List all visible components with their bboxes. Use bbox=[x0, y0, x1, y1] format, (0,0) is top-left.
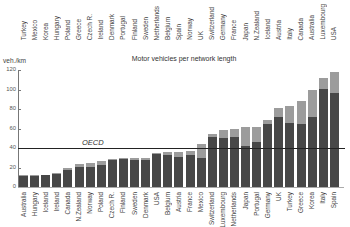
bar-dark-segment bbox=[197, 158, 206, 187]
bar-canada bbox=[63, 168, 72, 188]
bottom-country-label: Portugal bbox=[253, 192, 260, 216]
bottom-country-label: Austria bbox=[175, 192, 182, 212]
bar-greece bbox=[297, 101, 306, 187]
top-country-label: Belgium bbox=[164, 17, 171, 40]
bar-dark-segment bbox=[63, 170, 72, 187]
top-country-labels: TurkeyMexicoKoreaHungaryPolandGreeceCzec… bbox=[0, 0, 350, 42]
top-country-label: Czech R. bbox=[86, 14, 93, 40]
bar-dark-segment bbox=[86, 167, 95, 187]
x-baseline bbox=[18, 187, 344, 188]
bottom-country-label: Iceland bbox=[42, 192, 49, 213]
bar-dark-segment bbox=[274, 117, 283, 187]
top-country-label: Japan bbox=[242, 23, 249, 40]
y-tick-mark bbox=[18, 109, 21, 110]
bottom-country-label: UK bbox=[275, 192, 282, 201]
bottom-country-label: Finland bbox=[119, 192, 126, 213]
bottom-country-label: Hungary bbox=[31, 192, 38, 216]
bar-austria bbox=[174, 152, 183, 187]
bar-iceland bbox=[41, 175, 50, 187]
bar-norway bbox=[86, 163, 95, 187]
bar-dark-segment bbox=[75, 167, 84, 187]
y-tick-label: 60 bbox=[2, 125, 16, 131]
bar-dark-segment bbox=[41, 175, 50, 187]
top-country-label: Italy bbox=[286, 28, 293, 40]
y-tick-label: 20 bbox=[2, 164, 16, 170]
top-country-label: Turkey bbox=[20, 21, 27, 40]
top-country-label: Portugal bbox=[119, 16, 126, 40]
bar-dark-segment bbox=[119, 159, 128, 187]
bottom-country-label: Czech R. bbox=[108, 192, 115, 218]
bar-dark-segment bbox=[141, 160, 150, 187]
y-tick-label: 0 bbox=[2, 183, 16, 189]
bar-dark-segment bbox=[163, 155, 172, 187]
bar-dark-segment bbox=[97, 165, 106, 187]
top-country-label: USA bbox=[330, 27, 337, 40]
bar-dark-segment bbox=[285, 123, 294, 187]
bottom-country-label: Mexico bbox=[197, 192, 204, 212]
bar-czech-r- bbox=[108, 159, 117, 187]
bottom-country-label: Norway bbox=[86, 192, 93, 214]
bar-usa bbox=[152, 153, 161, 187]
bottom-country-label: Luxembourg bbox=[219, 192, 226, 227]
bar-dark-segment bbox=[30, 176, 39, 187]
bar-japan bbox=[241, 127, 250, 187]
bar-dark-segment bbox=[219, 138, 228, 187]
bar-germany bbox=[263, 120, 272, 187]
bar-ireland bbox=[52, 173, 61, 187]
bar-dark-segment bbox=[19, 176, 28, 187]
bottom-country-label: France bbox=[186, 192, 193, 212]
bar-finland bbox=[119, 158, 128, 187]
bottom-country-label: Ireland bbox=[53, 192, 60, 212]
bottom-country-label: Spain bbox=[330, 192, 337, 208]
bar-denmark bbox=[141, 158, 150, 187]
bar-n-zealand bbox=[75, 164, 84, 187]
top-country-label: Poland bbox=[64, 20, 71, 40]
bottom-country-label: Denmark bbox=[142, 192, 149, 218]
bar-dark-segment bbox=[241, 146, 250, 187]
bar-sweden bbox=[130, 158, 139, 187]
bar-dark-segment bbox=[330, 93, 339, 187]
y-tick-mark bbox=[18, 129, 21, 130]
bar-luxembourg bbox=[219, 130, 228, 187]
bottom-country-label: Belgium bbox=[164, 192, 171, 215]
bottom-country-label: Japan bbox=[242, 192, 249, 209]
bottom-country-label: Canada bbox=[64, 192, 71, 214]
top-country-label: Norway bbox=[186, 18, 193, 40]
top-country-label: N.Zealand bbox=[253, 11, 260, 41]
top-country-label: Switzerland bbox=[208, 7, 215, 40]
bottom-country-label: Netherlands bbox=[230, 192, 237, 226]
y-tick-mark bbox=[18, 70, 21, 71]
bar-switzerland bbox=[208, 134, 217, 187]
bar-belgium bbox=[163, 152, 172, 187]
top-country-label: France bbox=[230, 20, 237, 40]
top-country-label: Ireland bbox=[97, 20, 104, 40]
bar-turkey bbox=[285, 106, 294, 187]
top-country-label: UK bbox=[197, 31, 204, 40]
y-tick-mark bbox=[18, 168, 21, 169]
top-country-label: Germany bbox=[219, 14, 226, 40]
bottom-country-label: Switzerland bbox=[208, 192, 215, 225]
bar-dark-segment bbox=[152, 154, 161, 187]
top-country-label: Iceland bbox=[264, 19, 271, 40]
top-country-label: Canada bbox=[297, 18, 304, 40]
bar-spain bbox=[330, 72, 339, 187]
bottom-country-label: Sweden bbox=[131, 192, 138, 215]
bar-dark-segment bbox=[308, 117, 317, 187]
top-country-label: Korea bbox=[42, 23, 49, 40]
bar-dark-segment bbox=[208, 137, 217, 187]
bar-poland bbox=[97, 161, 106, 187]
bottom-country-label: Germany bbox=[264, 192, 271, 218]
bottom-country-label: USA bbox=[153, 192, 160, 205]
bottom-country-labels: AustraliaHungaryIcelandIrelandCanadaN.Ze… bbox=[0, 190, 350, 227]
bottom-country-label: Greece bbox=[297, 192, 304, 213]
top-country-label: Finland bbox=[131, 19, 138, 40]
bar-dark-segment bbox=[52, 174, 61, 187]
bar-dark-segment bbox=[319, 89, 328, 187]
oecd-label: OECD bbox=[82, 138, 104, 147]
bottom-country-label: Turkey bbox=[286, 192, 293, 211]
bar-dark-segment bbox=[130, 160, 139, 187]
top-country-label: Sweden bbox=[142, 17, 149, 40]
bar-dark-segment bbox=[108, 160, 117, 187]
bottom-country-label: Korea bbox=[308, 192, 315, 209]
bar-dark-segment bbox=[297, 124, 306, 187]
